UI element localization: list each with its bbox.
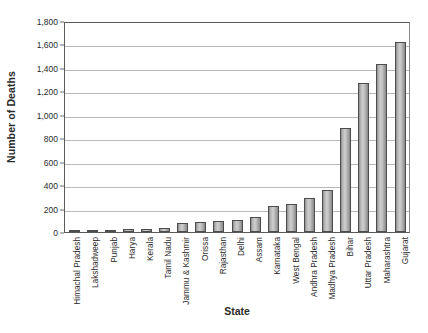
x-tick-slot: Assam <box>246 234 264 302</box>
bar-slot <box>391 23 409 232</box>
bar-slot <box>373 23 391 232</box>
bar[interactable] <box>250 217 261 232</box>
x-tick-label: Karnataka <box>273 237 282 275</box>
x-tick-slot: Lakshadweep <box>82 234 100 302</box>
x-tick-label: Lakshadweep <box>91 237 100 288</box>
bar[interactable] <box>232 220 243 232</box>
x-tick-slot: Gujarat <box>392 234 410 302</box>
x-axis-tick-labels: Himachal PradeshLakshadweepPunjabHaryaKe… <box>64 234 410 302</box>
bar[interactable] <box>177 223 188 232</box>
y-axis-title-text: Number of Deaths <box>5 70 17 162</box>
x-tick-label: Kerala <box>146 237 155 261</box>
x-tick-label: Bihar <box>346 237 355 256</box>
bar[interactable] <box>304 198 315 232</box>
y-tick-label: 200 <box>44 205 58 215</box>
bar[interactable] <box>213 221 224 232</box>
bar[interactable] <box>358 83 369 232</box>
bar-slot <box>210 23 228 232</box>
x-tick-slot: Andhra Pradesh <box>301 234 319 302</box>
y-tick-label: 1,000 <box>37 111 58 121</box>
y-tick-label: 1,800 <box>37 17 58 27</box>
x-tick-slot: Maharashtra <box>373 234 391 302</box>
x-tick-slot: West Bengal <box>282 234 300 302</box>
bar-slot <box>337 23 355 232</box>
x-tick-label: Andhra Pradesh <box>310 237 319 297</box>
bar-slot <box>246 23 264 232</box>
x-tick-label: Jammu & Kashmir <box>182 237 191 305</box>
bar-slot <box>137 23 155 232</box>
bar-slot <box>228 23 246 232</box>
y-tick-label: 600 <box>44 158 58 168</box>
x-tick-slot: Himachal Pradesh <box>64 234 82 302</box>
bar[interactable] <box>105 230 116 232</box>
x-tick-label: Tamil Nadu <box>164 237 173 278</box>
x-tick-slot: Rajasthan <box>210 234 228 302</box>
x-tick-slot: Tamil Nadu <box>155 234 173 302</box>
bar[interactable] <box>141 229 152 232</box>
x-tick-label: Harya <box>128 237 137 259</box>
bar[interactable] <box>395 42 406 232</box>
y-tick-label: 0 <box>53 228 58 238</box>
x-tick-slot: Orissa <box>191 234 209 302</box>
x-tick-label: West Bengal <box>292 237 301 284</box>
x-tick-slot: Delhi <box>228 234 246 302</box>
bar-slot <box>192 23 210 232</box>
x-tick-slot: Kerala <box>137 234 155 302</box>
bar-chart: Number of Deaths 02004006008001,0001,200… <box>0 0 428 333</box>
bar[interactable] <box>195 222 206 232</box>
x-tick-label: Rajasthan <box>219 237 228 274</box>
bar[interactable] <box>69 230 80 232</box>
bar-slot <box>156 23 174 232</box>
bar-slot <box>264 23 282 232</box>
bar[interactable] <box>159 228 170 232</box>
bar[interactable] <box>322 190 333 232</box>
y-axis-title: Number of Deaths <box>0 0 22 233</box>
x-tick-label: Gujarat <box>401 237 410 264</box>
bar[interactable] <box>123 229 134 232</box>
bar-slot <box>101 23 119 232</box>
x-tick-slot: Punjab <box>100 234 118 302</box>
y-axis-tick-labels: 02004006008001,0001,2001,4001,6001,800 <box>20 22 64 233</box>
x-tick-label: Punjab <box>110 237 119 263</box>
x-tick-label: Maharashtra <box>383 237 392 284</box>
x-tick-slot: Jammu & Kashmir <box>173 234 191 302</box>
y-tick-label: 1,400 <box>37 64 58 74</box>
bars-container <box>65 23 409 232</box>
bar-slot <box>282 23 300 232</box>
x-tick-label: Orissa <box>201 237 210 261</box>
bar[interactable] <box>268 206 279 232</box>
x-tick-label: Delhi <box>237 237 246 256</box>
x-tick-label: Uttar Pradesh <box>364 237 373 288</box>
bar-slot <box>119 23 137 232</box>
bar-slot <box>355 23 373 232</box>
x-tick-slot: Uttar Pradesh <box>355 234 373 302</box>
x-tick-slot: Madhya Pradesh <box>319 234 337 302</box>
bar-slot <box>83 23 101 232</box>
x-tick-slot: Bihar <box>337 234 355 302</box>
bar-slot <box>300 23 318 232</box>
y-tick-label: 800 <box>44 134 58 144</box>
y-tick-label: 1,200 <box>37 87 58 97</box>
x-tick-label: Assam <box>255 237 264 262</box>
bar[interactable] <box>87 230 98 232</box>
x-axis-title: State <box>64 305 410 317</box>
bar-slot <box>65 23 83 232</box>
bar-slot <box>174 23 192 232</box>
plot-area <box>64 22 410 233</box>
x-tick-label: Madhya Pradesh <box>328 237 337 300</box>
y-tick-label: 1,600 <box>37 40 58 50</box>
bar[interactable] <box>376 64 387 232</box>
bar[interactable] <box>286 204 297 232</box>
y-tick-label: 400 <box>44 181 58 191</box>
x-tick-slot: Harya <box>119 234 137 302</box>
bar-slot <box>319 23 337 232</box>
x-tick-slot: Karnataka <box>264 234 282 302</box>
bar[interactable] <box>340 128 351 232</box>
x-tick-label: Himachal Pradesh <box>73 237 82 305</box>
